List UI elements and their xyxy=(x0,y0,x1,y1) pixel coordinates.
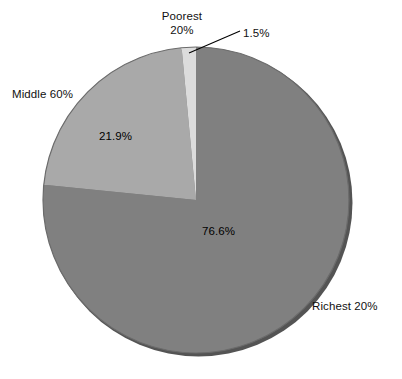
slice-label-middle: Middle 60% xyxy=(12,87,73,101)
slice-label-poorest-line2: 20% xyxy=(140,23,224,37)
slice-label-poorest: Poorest 20% xyxy=(140,9,224,37)
slice-value-poorest: 1.5% xyxy=(243,26,270,40)
slice-label-poorest-line1: Poorest xyxy=(140,9,224,23)
slice-value-middle: 21.9% xyxy=(99,130,132,142)
slice-value-richest: 76.6% xyxy=(202,225,235,237)
slice-label-richest: Richest 20% xyxy=(312,299,378,313)
pie-chart-canvas xyxy=(0,0,402,379)
pie-chart: Poorest 20% 1.5% Middle 60% Richest 20% … xyxy=(0,0,402,379)
pie-slice-middle[interactable] xyxy=(44,48,196,200)
